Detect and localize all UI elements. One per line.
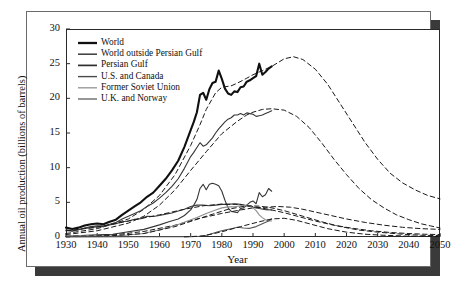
legend-label: Former Soviet Union xyxy=(101,82,180,92)
figure-root: Annual oil production (billions of barre… xyxy=(0,0,475,293)
x-axis-title: Year xyxy=(0,253,475,265)
y-tick-label: 10 xyxy=(34,161,60,172)
legend-label: U.K. and Norway xyxy=(101,93,167,103)
legend-label: World outside Persian Gulf xyxy=(101,48,202,58)
legend-label: U.S. and Canada xyxy=(101,71,163,81)
y-axis-title: Annual oil production (billions of barre… xyxy=(16,52,27,252)
legend-label: World xyxy=(101,37,124,47)
legend-label: Persian Gulf xyxy=(101,59,148,69)
legend-line-swatches xyxy=(78,43,97,99)
y-tick-label: 15 xyxy=(34,126,60,137)
y-tick-label: 5 xyxy=(34,195,60,206)
y-tick-label: 30 xyxy=(34,22,60,33)
y-tick-label: 20 xyxy=(34,91,60,102)
x-tick-label: 2050 xyxy=(420,239,460,250)
y-tick-label: 25 xyxy=(34,57,60,68)
